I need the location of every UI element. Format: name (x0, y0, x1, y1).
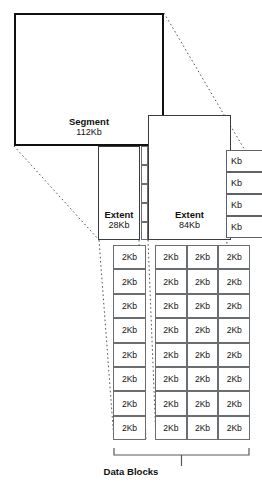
data-blocks-bracket (114, 448, 249, 455)
extent-box-84kb: Extent 84Kb (148, 115, 231, 240)
connector-segment-left-to-extent (14, 146, 99, 240)
data-block-cell: 2Kb (155, 294, 187, 318)
data-blocks-caption: Data Blocks (0, 466, 262, 477)
data-block-cell: 2Kb (187, 391, 219, 415)
data-block-cell: 2Kb (113, 318, 146, 342)
connector-extent28-left-to-blocks (99, 240, 114, 440)
data-block-cell: 2Kb (218, 416, 250, 440)
clipped-kb-block: Kb (226, 172, 262, 194)
divider-strip-cell (141, 184, 148, 203)
data-block-cell: 2Kb (113, 269, 146, 293)
extent-28kb-size: 28Kb (99, 220, 139, 231)
storage-hierarchy-diagram: Segment 112Kb Extent 28Kb Extent 84Kb Kb… (0, 0, 262, 488)
divider-strip-cell (141, 165, 148, 184)
data-block-cell: 2Kb (113, 391, 146, 415)
segment-label-group: Segment 112Kb (16, 116, 162, 138)
extent-84kb-size: 84Kb (149, 220, 230, 231)
data-block-cell: 2Kb (218, 343, 250, 367)
segment-box: Segment 112Kb (14, 13, 164, 146)
data-block-cell: 2Kb (218, 245, 250, 269)
divider-strip-cell (141, 222, 148, 240)
data-block-cell: 2Kb (187, 269, 219, 293)
data-block-cell: 2Kb (218, 367, 250, 391)
data-block-cell: 2Kb (218, 318, 250, 342)
divider-strip-cell (141, 146, 148, 165)
clipped-kb-block: Kb (226, 216, 262, 238)
extent-28kb-name: Extent (99, 209, 139, 220)
clipped-kb-block: Kb (226, 194, 262, 216)
extent-84kb-label-group: Extent 84Kb (149, 209, 230, 231)
data-block-cell: 2Kb (113, 367, 146, 391)
segment-name: Segment (16, 116, 162, 127)
data-block-cell: 2Kb (155, 245, 187, 269)
extent-28kb-label-group: Extent 28Kb (99, 209, 139, 231)
data-block-cell: 2Kb (187, 367, 219, 391)
data-block-cell: 2Kb (187, 343, 219, 367)
data-block-cell: 2Kb (155, 318, 187, 342)
segment-size: 112Kb (16, 127, 162, 138)
clipped-kb-block: Kb (226, 150, 262, 172)
data-block-cell: 2Kb (218, 391, 250, 415)
data-block-cell: 2Kb (113, 245, 146, 269)
divider-strip-cell (141, 203, 148, 222)
extent-84kb-name: Extent (149, 209, 230, 220)
data-block-cell: 2Kb (218, 269, 250, 293)
data-block-cell: 2Kb (187, 245, 219, 269)
data-block-cell: 2Kb (113, 294, 146, 318)
data-block-cell: 2Kb (155, 343, 187, 367)
data-block-cell: 2Kb (113, 343, 146, 367)
data-block-cell: 2Kb (113, 416, 146, 440)
data-block-cell: 2Kb (155, 416, 187, 440)
data-block-cell: 2Kb (155, 391, 187, 415)
data-block-cell: 2Kb (187, 294, 219, 318)
extent-box-28kb: Extent 28Kb (98, 146, 140, 240)
data-block-cell: 2Kb (187, 416, 219, 440)
data-block-cell: 2Kb (218, 294, 250, 318)
data-block-cell: 2Kb (155, 367, 187, 391)
data-block-cell: 2Kb (155, 269, 187, 293)
data-block-cell: 2Kb (187, 318, 219, 342)
